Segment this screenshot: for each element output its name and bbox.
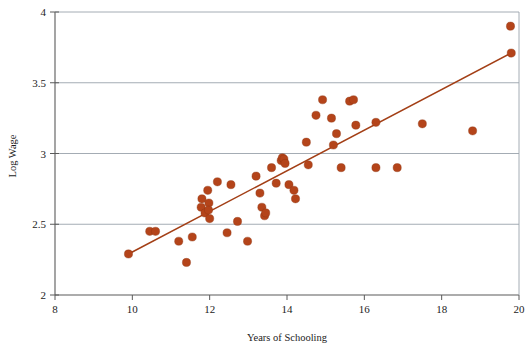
data-point <box>332 130 340 138</box>
y-tick-label-2: 2 <box>41 289 47 301</box>
data-point <box>281 159 289 167</box>
data-point <box>124 250 132 258</box>
data-point <box>506 22 514 30</box>
x-tick-label-12: 12 <box>204 303 215 315</box>
data-point <box>233 217 241 225</box>
data-point <box>304 161 312 169</box>
y-axis-title: Log Wage <box>7 134 18 177</box>
data-point <box>204 186 212 194</box>
scatter-plot-figure: 8101214161820 22.533.54 Years of Schooli… <box>0 0 529 354</box>
data-point <box>290 186 298 194</box>
y-tick-label-3: 3 <box>41 148 47 160</box>
data-point <box>262 209 270 217</box>
data-point <box>256 189 264 197</box>
data-point <box>352 121 360 129</box>
x-tick-label-16: 16 <box>359 303 371 315</box>
data-point <box>349 96 357 104</box>
y-tick-label-2.5: 2.5 <box>32 218 46 230</box>
x-tick-label-8: 8 <box>52 303 58 315</box>
data-point <box>151 227 159 235</box>
data-point <box>175 237 183 245</box>
data-point <box>267 164 275 172</box>
x-axis-title: Years of Schooling <box>247 332 328 343</box>
y-tick-label-3.5: 3.5 <box>32 77 46 89</box>
chart-background <box>0 0 529 354</box>
data-point <box>337 164 345 172</box>
data-point <box>327 114 335 122</box>
data-point <box>302 138 310 146</box>
data-point <box>213 178 221 186</box>
x-tick-label-20: 20 <box>514 303 526 315</box>
data-point <box>372 164 380 172</box>
chart-svg: 8101214161820 22.533.54 Years of Schooli… <box>0 0 529 354</box>
data-point <box>182 258 190 266</box>
data-point <box>188 233 196 241</box>
data-point <box>372 118 380 126</box>
x-tick-label-18: 18 <box>436 303 448 315</box>
data-point <box>252 172 260 180</box>
y-tick-label-4: 4 <box>41 6 47 18</box>
data-point <box>507 49 515 57</box>
data-point <box>312 111 320 119</box>
data-point <box>418 120 426 128</box>
data-point <box>204 206 212 214</box>
data-point <box>469 127 477 135</box>
x-tick-label-14: 14 <box>282 303 294 315</box>
data-point <box>318 96 326 104</box>
data-point <box>272 179 280 187</box>
data-point <box>223 229 231 237</box>
x-tick-label-10: 10 <box>127 303 139 315</box>
data-point <box>291 195 299 203</box>
data-point <box>243 237 251 245</box>
data-point <box>198 195 206 203</box>
data-point <box>206 214 214 222</box>
data-point <box>329 141 337 149</box>
data-point <box>227 181 235 189</box>
data-point <box>393 164 401 172</box>
